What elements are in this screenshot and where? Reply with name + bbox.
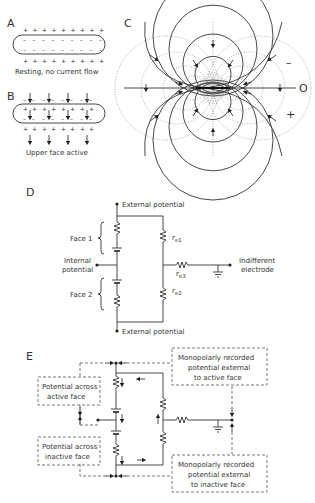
panel-e: E — [26, 348, 267, 492]
charge-sign: + — [42, 125, 47, 132]
charge-sign: – — [80, 46, 83, 53]
charge-sign: – — [42, 96, 45, 103]
charge-sign: + — [70, 125, 75, 132]
charge-sign: – — [71, 46, 74, 53]
figure-canvas: A +++++++++ ––––––––– ––––––––– ++++++++… — [0, 0, 315, 503]
charge-sign: + — [71, 26, 76, 33]
charge-sign: – — [80, 96, 83, 103]
charge-sign: + — [42, 105, 47, 112]
outer-charges-bottom: +++++++++ — [23, 57, 104, 64]
charge-sign: + — [52, 57, 57, 64]
charge-sign: + — [33, 26, 38, 33]
charge-sign: + — [80, 125, 85, 132]
re3-label: re3 — [176, 270, 186, 279]
field-arrow — [193, 60, 197, 66]
charge-sign: + — [61, 26, 66, 33]
panel-b-caption: Upper face active — [26, 149, 88, 157]
charge-sign: – — [90, 46, 93, 53]
mono-inactive-label-2: potential external — [188, 471, 250, 479]
charge-sign: + — [61, 57, 66, 64]
charge-sign: – — [52, 46, 55, 53]
field-arrow — [229, 60, 233, 66]
charge-sign: + — [51, 105, 56, 112]
mono-active-label-1: Monopolarly recorded — [178, 354, 254, 362]
external-bottom-label: External potential — [122, 328, 184, 336]
active-label-2: active face — [47, 393, 85, 401]
charge-sign: – — [23, 36, 26, 43]
charge-sign: + — [89, 125, 94, 132]
mono-active-label-3: to active face — [194, 374, 242, 382]
charge-sign: – — [51, 96, 54, 103]
panel-c-letter: C — [124, 17, 132, 30]
terminal-bottom — [115, 329, 118, 332]
charge-sign: + — [32, 105, 37, 112]
re2-label: re2 — [172, 287, 182, 296]
resistor-re3 — [176, 262, 188, 268]
field-arrow — [229, 110, 233, 116]
charge-sign: – — [23, 115, 26, 122]
label-minus: – — [286, 56, 292, 69]
charge-sign: + — [89, 105, 94, 112]
charge-sign: – — [70, 115, 73, 122]
charge-sign: + — [80, 105, 85, 112]
charge-sign: – — [61, 36, 64, 43]
panel-b-letter: B — [7, 90, 15, 103]
charge-sign: + — [23, 57, 28, 64]
charge-sign: + — [99, 26, 104, 33]
resistor-inactive — [113, 444, 119, 456]
panel-b: B –+–+–+–+–+–+–+–+–+–+–+–+–+–+–+–+ Upper… — [7, 90, 105, 157]
charge-sign: – — [99, 46, 102, 53]
charge-sign: – — [32, 115, 35, 122]
dipole-field-lines — [115, 0, 311, 200]
charge-sign: + — [33, 57, 38, 64]
charge-sign: + — [61, 125, 66, 132]
charge-sign: + — [80, 57, 85, 64]
panel-d: D External potential External potential … — [26, 186, 275, 336]
charge-sign: + — [99, 57, 104, 64]
face1-label: Face 1 — [70, 235, 93, 243]
panel-c: C – O + — [115, 0, 311, 200]
charge-sign: – — [89, 96, 92, 103]
re1-label: re1 — [172, 234, 182, 243]
panel-a-caption: Resting, no current flow — [15, 68, 99, 76]
internal-label-2: potential — [62, 266, 93, 274]
charge-sign: – — [61, 96, 64, 103]
charge-sign: – — [32, 96, 35, 103]
charge-sign: – — [99, 36, 102, 43]
charge-sign: – — [90, 36, 93, 43]
charge-sign: – — [70, 96, 73, 103]
brace-face1 — [98, 222, 104, 254]
mono-inactive-label-1: Monopolarly recorded — [178, 461, 254, 469]
internal-label-1: Internal — [64, 257, 91, 265]
current-arrows: –+–+–+–+–+–+–+–+–+–+–+–+–+–+–+–+ — [23, 93, 94, 143]
charge-sign: + — [51, 125, 56, 132]
charge-sign: + — [52, 26, 57, 33]
charge-sign: – — [61, 46, 64, 53]
outer-charges-top: +++++++++ — [23, 26, 104, 33]
charge-sign: + — [90, 57, 95, 64]
charge-sign: + — [23, 125, 28, 132]
label-plus: + — [286, 108, 295, 121]
charge-sign: + — [42, 26, 47, 33]
charge-sign: + — [70, 105, 75, 112]
external-top-label: External potential — [122, 201, 184, 209]
label-zero: O — [299, 82, 308, 95]
active-label-1: Potential across — [42, 383, 98, 391]
charge-sign: – — [33, 36, 36, 43]
charge-sign: – — [42, 46, 45, 53]
charge-sign: – — [51, 115, 54, 122]
charge-sign: – — [33, 46, 36, 53]
charge-sign: – — [42, 115, 45, 122]
resistor-face2 — [114, 295, 120, 307]
face2-label: Face 2 — [70, 291, 93, 299]
mono-active-label-2: potential external — [188, 364, 250, 372]
panel-e-letter: E — [26, 350, 33, 363]
mono-inactive-label-3: to inactive face — [191, 481, 245, 489]
panel-d-letter: D — [26, 186, 34, 199]
terminal-indifferent — [228, 263, 231, 266]
charge-sign: + — [80, 26, 85, 33]
resistor-re1 — [160, 230, 166, 242]
field-arrow — [193, 110, 197, 116]
indifferent-label-2: electrode — [241, 266, 274, 274]
charge-sign: + — [90, 26, 95, 33]
